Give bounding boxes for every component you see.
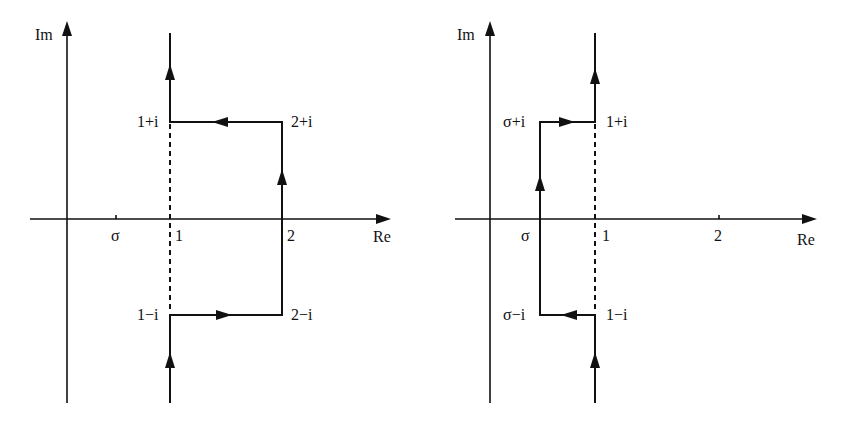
right-im-label: Im	[457, 26, 475, 43]
left-arrow-right-icon	[216, 310, 232, 320]
right-sigma-label: σ	[521, 227, 530, 244]
right-arrow-up-top-icon	[590, 68, 600, 84]
right-point-1-minus-i: 1−i	[606, 306, 628, 323]
left-sigma-label: σ	[111, 227, 120, 244]
right-contour-path	[540, 33, 595, 403]
right-re-label: Re	[797, 231, 815, 248]
left-im-axis-arrow-icon	[62, 21, 72, 36]
left-point-1-plus-i: 1+i	[137, 113, 159, 130]
right-tick-1-label: 1	[602, 227, 610, 244]
right-tick-2-label: 2	[714, 227, 722, 244]
left-contour-path	[170, 33, 282, 403]
right-arrow-up-left-icon	[535, 175, 545, 191]
left-re-axis-arrow-icon	[376, 214, 391, 224]
right-point-1-plus-i: 1+i	[606, 113, 628, 130]
contour-diagrams: Im Re σ 1 2 1+i 2+i 1−i 2−i Im Re σ 1 2 …	[0, 0, 843, 426]
left-point-1-minus-i: 1−i	[137, 306, 159, 323]
right-arrow-up-bottom-icon	[590, 352, 600, 368]
left-tick-2-label: 2	[287, 227, 295, 244]
left-arrow-up-top-icon	[165, 64, 175, 80]
right-im-axis-arrow-icon	[485, 21, 495, 36]
right-arrow-left-icon	[561, 310, 577, 320]
left-point-2-plus-i: 2+i	[291, 113, 313, 130]
left-im-label: Im	[35, 26, 53, 43]
right-point-sigma-plus-i: σ+i	[503, 113, 526, 130]
left-arrow-left-icon	[212, 117, 228, 127]
left-diagram: Im Re σ 1 2 1+i 2+i 1−i 2−i	[30, 21, 391, 403]
left-point-2-minus-i: 2−i	[291, 306, 313, 323]
left-re-label: Re	[373, 228, 391, 245]
left-arrow-up-bottom-icon	[165, 352, 175, 368]
left-arrow-up-right-icon	[277, 169, 287, 185]
right-diagram: Im Re σ 1 2 σ+i 1+i σ−i 1−i	[455, 21, 817, 403]
right-point-sigma-minus-i: σ−i	[503, 306, 526, 323]
left-tick-1-label: 1	[175, 227, 183, 244]
right-re-axis-arrow-icon	[802, 214, 817, 224]
right-arrow-right-icon	[559, 117, 575, 127]
